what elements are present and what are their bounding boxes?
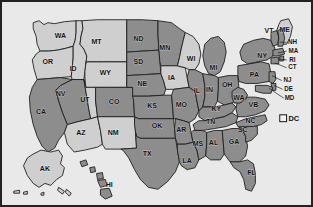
state-label: MO xyxy=(176,101,188,108)
state-label: NM xyxy=(108,129,119,136)
state-label: NV xyxy=(56,90,66,97)
state-label: KS xyxy=(147,102,157,109)
state-label: MS xyxy=(193,140,204,147)
state-label: LA xyxy=(183,157,192,164)
state-label: ME xyxy=(279,26,290,33)
callout-label: CT xyxy=(288,63,296,70)
state-label: KY xyxy=(212,105,222,112)
state-label: WA xyxy=(55,32,66,39)
callout-label: NJ xyxy=(284,76,292,83)
callout-label: NH xyxy=(288,38,297,45)
legend: DC xyxy=(280,114,300,123)
state-shape-ct[interactable] xyxy=(271,57,279,64)
leader-line-ct xyxy=(275,63,287,68)
state-label: TN xyxy=(206,118,215,125)
state-label: HI xyxy=(106,181,113,188)
state-label: VT xyxy=(265,27,275,34)
map-frame: WAORIDMTWYNVCAUTAZCONMNDSDNEKSOKTXMNIAMO… xyxy=(0,0,313,207)
state-shape-hi-5[interactable] xyxy=(100,188,112,199)
state-label: UT xyxy=(80,96,90,103)
state-shape-hi-2[interactable] xyxy=(90,167,96,173)
aleutian-islands xyxy=(14,187,71,196)
state-label: IL xyxy=(194,87,201,94)
callout-label: RI xyxy=(289,56,295,63)
state-shape-mt[interactable] xyxy=(80,20,127,64)
state-label: SC xyxy=(238,126,248,133)
state-label: TX xyxy=(143,150,152,157)
map-canvas: WAORIDMTWYNVCAUTAZCONMNDSDNEKSOKTXMNIAMO… xyxy=(4,7,309,203)
state-label: NY xyxy=(257,52,267,59)
state-label: IA xyxy=(168,74,175,81)
state-label: VB xyxy=(249,101,259,108)
state-label: MT xyxy=(92,38,103,45)
callout-labels: NHMARICTNJDEMD xyxy=(284,38,299,101)
state-label: MN xyxy=(159,44,170,51)
state-label: AL xyxy=(209,139,219,146)
state-label: IN xyxy=(206,86,213,93)
state-label: GA xyxy=(229,138,240,145)
state-shape-hi-3[interactable] xyxy=(97,173,104,180)
state-shape-nj[interactable] xyxy=(269,72,276,84)
us-map-svg[interactable]: WAORIDMTWYNVCAUTAZCONMNDSDNEKSOKTXMNIAMO… xyxy=(4,7,309,203)
state-label: WA xyxy=(233,94,244,101)
callout-label: MD xyxy=(285,94,295,101)
state-label: WY xyxy=(100,69,112,76)
state-label: CO xyxy=(109,98,120,105)
callout-label: DE xyxy=(284,85,293,92)
state-label: OK xyxy=(152,122,163,129)
legend-swatch-dc xyxy=(280,115,287,122)
state-shape-hi-1[interactable] xyxy=(80,160,88,167)
state-label: WI xyxy=(187,55,196,62)
legend-label-dc: DC xyxy=(289,114,300,123)
state-label: FL xyxy=(247,169,256,176)
state-label: OR xyxy=(43,58,54,65)
state-label: SD xyxy=(134,58,144,65)
callout-label: MA xyxy=(289,47,299,54)
state-label: AR xyxy=(176,126,186,133)
state-label: CA xyxy=(36,108,46,115)
state-label: NE xyxy=(138,80,148,87)
state-label: OH xyxy=(222,81,233,88)
state-label: NC xyxy=(245,117,255,124)
state-shape-ri[interactable] xyxy=(280,56,284,61)
state-label: ID xyxy=(70,65,77,72)
state-label: ND xyxy=(133,35,143,42)
state-label: AK xyxy=(40,165,50,172)
state-label: MI xyxy=(210,64,218,71)
state-label: PA xyxy=(250,71,259,78)
state-label: AZ xyxy=(76,129,86,136)
state-shape-sd[interactable] xyxy=(127,50,161,75)
